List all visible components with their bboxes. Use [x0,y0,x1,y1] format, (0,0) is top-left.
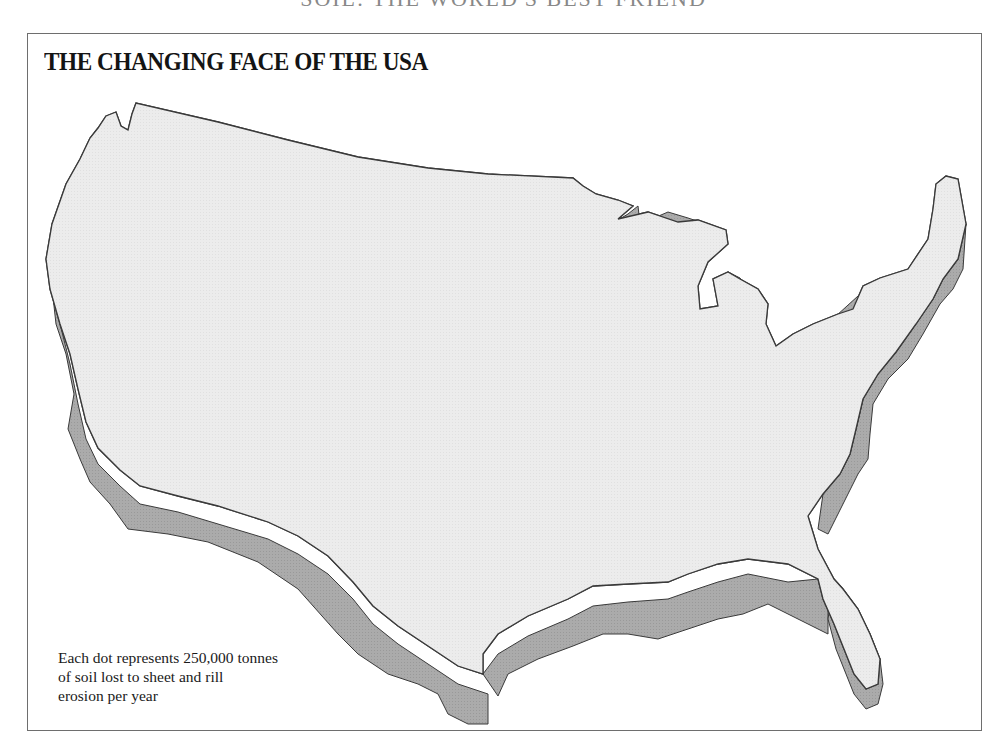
map-legend: Each dot represents 250,000 tonnes of so… [58,648,278,705]
usa-erosion-map [28,34,983,732]
figure-title: THE CHANGING FACE OF THE USA [44,48,428,76]
legend-line-1: Each dot represents 250,000 tonnes [58,648,278,667]
running-head: SOIL: THE WORLD'S BEST FRIEND [0,0,1007,12]
legend-line-2: of soil lost to sheet and rill [58,667,278,686]
legend-line-3: erosion per year [58,686,278,705]
figure-frame: THE CHANGING FACE OF THE USA Each dot re… [27,33,982,731]
